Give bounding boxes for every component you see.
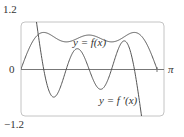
chart-canvas [0, 0, 184, 137]
f-prime-curve-label: y = f ′(x) [99, 95, 137, 106]
origin-label: 0 [9, 64, 15, 75]
y-top-label: 1.2 [3, 4, 17, 15]
f-curve-label: y = f(x) [73, 37, 106, 48]
x-end-label: π [168, 64, 174, 75]
y-bottom-label: −1.2 [4, 119, 24, 130]
